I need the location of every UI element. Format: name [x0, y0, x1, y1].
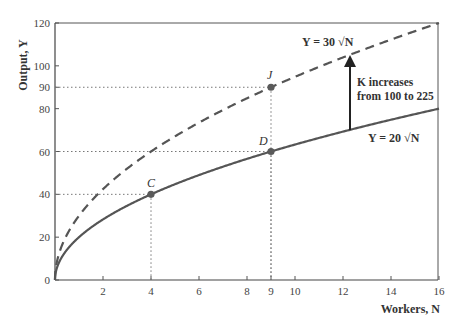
point-j [267, 84, 274, 91]
y-tick-label: 120 [34, 17, 51, 29]
x-tick-label: 16 [434, 285, 446, 297]
x-axis-title: Workers, N [381, 302, 441, 316]
x-tick-label: 2 [100, 285, 106, 297]
y-tick-label: 20 [39, 231, 51, 243]
x-tick-label: 6 [196, 285, 202, 297]
guide-lines [55, 87, 271, 280]
x-axis-ticks: 2468910121416 [100, 276, 445, 297]
x-tick-label: 14 [386, 285, 398, 297]
point-label-j: J [267, 68, 273, 82]
curve-high-label: Y = 30 √N [302, 35, 354, 49]
x-tick-label: 8 [244, 285, 250, 297]
point-c [147, 191, 154, 198]
annotation-line-2: from 100 to 225 [357, 90, 434, 102]
point-label-d: D [258, 134, 268, 148]
capital-increase-arrow [344, 55, 356, 130]
y-tick-label: 0 [45, 274, 51, 286]
annotation-line-1: K increases [357, 76, 414, 88]
point-d [267, 148, 274, 155]
point-label-c: C [147, 176, 156, 190]
y-axis-title: Output, Y [16, 39, 30, 91]
x-tick-label: 9 [268, 285, 274, 297]
y-tick-label: 100 [34, 60, 51, 72]
y-tick-label: 90 [39, 81, 51, 93]
y-tick-label: 60 [39, 146, 51, 158]
x-tick-label: 4 [148, 285, 154, 297]
x-tick-label: 10 [290, 285, 302, 297]
y-tick-label: 40 [39, 188, 51, 200]
curve-low-label: Y = 20 √N [368, 131, 420, 145]
production-function-chart: 02040608090100120 2468910121416 CDJ K in… [0, 0, 464, 325]
y-tick-label: 80 [39, 103, 51, 115]
x-tick-label: 12 [338, 285, 349, 297]
